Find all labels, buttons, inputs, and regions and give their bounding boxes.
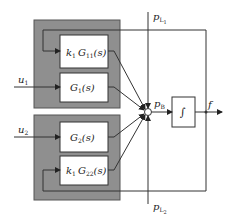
label-f: f <box>207 99 214 110</box>
label-u1: u1 <box>18 74 28 86</box>
label-pL2: pL2 <box>153 201 167 215</box>
summing-junction <box>145 109 152 116</box>
branch-point <box>205 111 208 114</box>
label-g1: G1(s) <box>70 82 95 94</box>
block-diagram: k1G11(s) G1(s) G2(s) k1G22(s) ∫ u1 u2 pL… <box>0 0 233 218</box>
integrator-symbol: ∫ <box>180 106 186 119</box>
label-u2: u2 <box>18 124 28 136</box>
label-pB: pB <box>154 98 165 110</box>
label-pL1: pL1 <box>153 11 167 25</box>
label-g2: G2(s) <box>70 132 95 144</box>
